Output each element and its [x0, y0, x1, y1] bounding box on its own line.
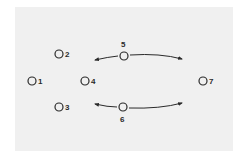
node-6-label: 6 [120, 115, 125, 124]
arrow-5-left [95, 56, 118, 60]
node-7: 7 [199, 77, 214, 86]
arrow-6-left [95, 104, 117, 107]
node-3: 3 [55, 103, 70, 112]
node-2: 2 [55, 50, 70, 59]
arrow-6-right [129, 103, 182, 108]
node-3-label: 3 [65, 103, 70, 112]
node-5-label: 5 [121, 40, 126, 49]
node-1-label: 1 [38, 77, 43, 86]
node-6: 6 [119, 103, 127, 124]
node-diagram: 1 2 3 4 5 6 7 [0, 0, 244, 161]
node-5: 5 [120, 40, 128, 60]
arrow-5-right [130, 55, 182, 60]
node-2-label: 2 [65, 50, 70, 59]
node-7-label: 7 [209, 77, 214, 86]
node-4: 4 [81, 77, 96, 86]
node-4-label: 4 [91, 77, 96, 86]
node-1: 1 [28, 77, 43, 86]
